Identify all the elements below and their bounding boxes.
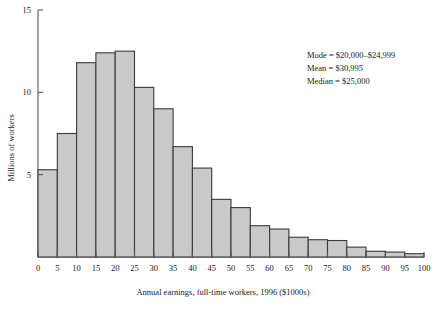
histogram-bar bbox=[192, 168, 211, 257]
x-tick-label: 90 bbox=[381, 263, 390, 273]
histogram-bar bbox=[115, 51, 134, 257]
x-tick-label: 95 bbox=[400, 263, 409, 273]
histogram-bar bbox=[270, 229, 289, 257]
x-tick-label: 80 bbox=[343, 263, 352, 273]
x-tick-label: 60 bbox=[265, 263, 274, 273]
histogram-bar bbox=[250, 226, 269, 257]
y-axis-title: Millions of workers bbox=[6, 114, 16, 182]
annotation-mean: Mean = $30,995 bbox=[307, 63, 363, 73]
x-tick-label: 45 bbox=[207, 263, 216, 273]
histogram-bar bbox=[347, 247, 366, 257]
x-tick-label: 100 bbox=[418, 263, 431, 273]
x-tick-label: 65 bbox=[285, 263, 294, 273]
histogram-figure: 51015 0510152025303540455055606570758085… bbox=[0, 0, 447, 310]
x-tick-label: 10 bbox=[72, 263, 81, 273]
x-tick-label: 5 bbox=[55, 263, 59, 273]
histogram-bar bbox=[385, 252, 404, 257]
histogram-bar bbox=[173, 147, 192, 257]
x-tick-label: 25 bbox=[130, 263, 139, 273]
y-tick-label: 15 bbox=[23, 5, 32, 15]
histogram-bar bbox=[57, 134, 76, 258]
y-ticks-group: 51015 bbox=[23, 5, 44, 180]
annotation-median: Median = $25,000 bbox=[307, 76, 370, 86]
y-tick-label: 10 bbox=[23, 87, 32, 97]
x-tick-label: 15 bbox=[92, 263, 101, 273]
x-tick-label: 70 bbox=[304, 263, 313, 273]
x-tick-label: 75 bbox=[323, 263, 332, 273]
histogram-bar bbox=[405, 254, 424, 257]
histogram-bar bbox=[212, 199, 231, 257]
x-tick-label: 40 bbox=[188, 263, 197, 273]
histogram-bar bbox=[154, 109, 173, 257]
x-tick-label: 35 bbox=[169, 263, 178, 273]
histogram-bar bbox=[231, 208, 250, 257]
histogram-bar bbox=[366, 251, 385, 257]
x-tick-label: 55 bbox=[246, 263, 255, 273]
statistics-annotation: Mode = $20,000–$24,999 Mean = $30,995 Me… bbox=[307, 50, 395, 86]
x-tick-label: 30 bbox=[150, 263, 159, 273]
annotation-mode: Mode = $20,000–$24,999 bbox=[307, 50, 395, 60]
histogram-bar bbox=[308, 240, 327, 257]
x-tick-label: 85 bbox=[362, 263, 371, 273]
x-tick-label: 20 bbox=[111, 263, 120, 273]
histogram-bar bbox=[38, 170, 57, 257]
histogram-svg: 51015 0510152025303540455055606570758085… bbox=[0, 0, 447, 310]
x-tick-label: 0 bbox=[36, 263, 40, 273]
y-tick-label: 5 bbox=[27, 170, 31, 180]
histogram-bar bbox=[77, 63, 96, 257]
histogram-bar bbox=[96, 53, 115, 257]
histogram-bar bbox=[328, 241, 347, 257]
x-axis-title: Annual earnings, full-time workers, 1996… bbox=[136, 287, 309, 297]
histogram-bar bbox=[289, 237, 308, 257]
histogram-bar bbox=[135, 87, 154, 257]
x-tick-label: 50 bbox=[227, 263, 236, 273]
